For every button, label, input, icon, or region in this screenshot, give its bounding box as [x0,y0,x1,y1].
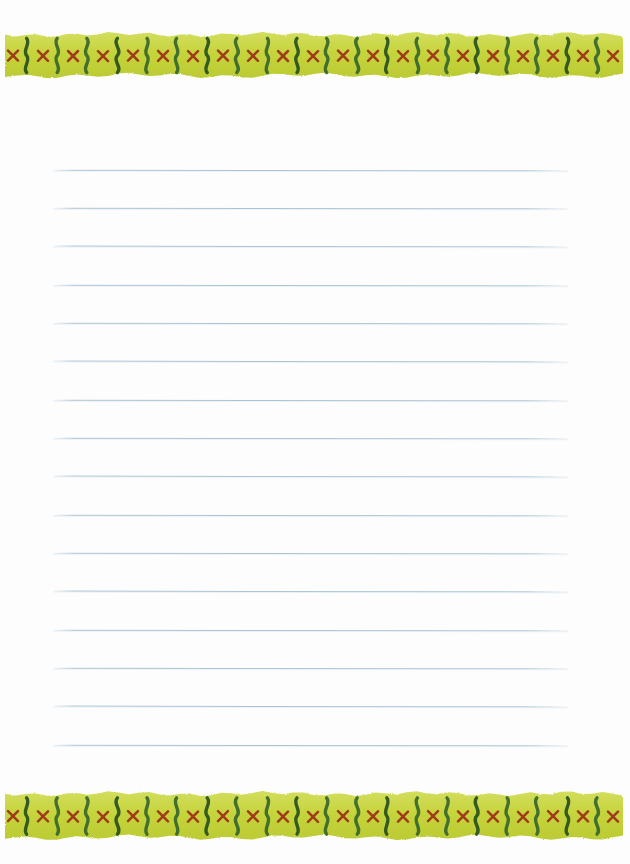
rule-line [53,668,568,670]
rule-line [53,208,568,210]
rule-line [53,630,568,632]
rule-line [53,553,568,555]
rule-line [53,400,568,402]
rule-line [53,438,568,440]
rule-line [53,361,568,363]
x-and-squiggle-ribbon-icon [5,32,623,78]
rule-line [53,246,568,248]
stationery-page [0,0,630,864]
rule-line [53,170,568,172]
rule-line [53,706,568,708]
rule-line [53,476,568,478]
rule-line [53,591,568,593]
rule-line [53,323,568,325]
top-decorative-border [5,32,623,78]
rule-line [53,745,568,747]
x-and-squiggle-ribbon-icon [5,791,623,840]
paper-sheet [0,0,630,864]
bottom-decorative-border [5,791,623,840]
rule-line [53,285,568,287]
rule-line [53,515,568,517]
